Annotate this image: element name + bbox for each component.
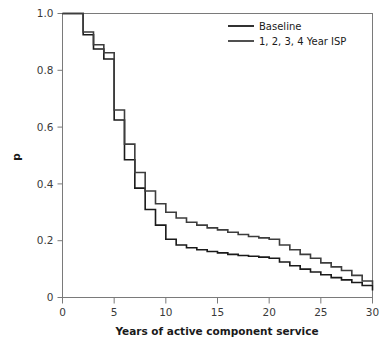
y-tick-label: 0.6 [37,121,54,133]
x-tick-label: 20 [262,306,275,318]
chart-background [0,0,389,351]
x-tick-label: 25 [314,306,327,318]
x-tick-label: 15 [211,306,224,318]
y-tick-label: 0 [47,291,54,303]
y-tick-label: 0.2 [37,234,54,246]
figure-container: 00.20.40.60.81.0 051015202530 Baseline1,… [0,0,389,351]
survival-curve-chart: 00.20.40.60.81.0 051015202530 Baseline1,… [0,0,389,351]
x-tick-label: 0 [59,306,66,318]
y-tick-label: 0.8 [37,64,54,76]
legend-label: Baseline [259,21,301,32]
y-tick-label: 0.4 [37,178,54,190]
x-tick-label: 30 [366,306,379,318]
legend-label: 1, 2, 3, 4 Year ISP [259,36,346,47]
x-tick-label: 5 [111,306,118,318]
y-axis-title: p [10,153,22,161]
x-axis-title: Years of active component service [114,325,318,337]
x-tick-label: 10 [159,306,172,318]
y-tick-label: 1.0 [37,7,54,19]
